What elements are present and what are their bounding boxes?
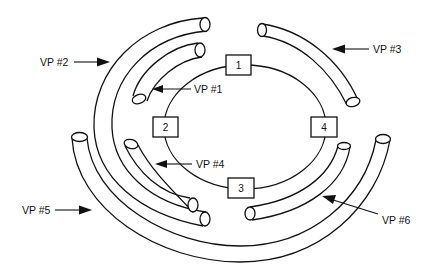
arrow-right-icon	[97, 58, 110, 67]
vp2-callout: VP #2	[40, 56, 110, 68]
node-3-label: 3	[238, 183, 244, 194]
vp1-label: VP #1	[194, 83, 223, 95]
vp5-callout: VP #5	[22, 204, 92, 216]
node-1-label: 1	[236, 60, 242, 71]
virtual-path-1-tube	[131, 43, 205, 106]
virtual-path-ring-diagram: 1 2 3 4 VP #1 VP #2 VP #3 VP #4 VP #5	[0, 0, 429, 278]
vp2-label: VP #2	[40, 56, 69, 68]
virtual-path-2-tube	[94, 18, 210, 227]
arrow-up-left-icon	[322, 195, 336, 204]
virtual-path-3-tube	[258, 24, 361, 109]
node-4-box: 4	[311, 117, 337, 137]
arrow-left-icon	[152, 85, 163, 93]
vp6-label: VP #6	[382, 214, 411, 226]
vp4-callout: VP #4	[155, 158, 225, 170]
node-1-box: 1	[226, 55, 251, 75]
virtual-path-6-tube	[245, 143, 351, 221]
arrow-left-icon	[155, 160, 167, 168]
vp3-label: VP #3	[373, 43, 402, 55]
arrow-right-icon	[79, 206, 92, 215]
arrow-left-icon	[332, 45, 345, 54]
vp4-label: VP #4	[196, 158, 225, 170]
node-3-box: 3	[228, 178, 254, 198]
node-4-label: 4	[321, 122, 327, 133]
vp5-label: VP #5	[22, 204, 51, 216]
virtual-path-4-tube	[123, 138, 198, 212]
vp1-callout: VP #1	[152, 83, 223, 95]
vp3-callout: VP #3	[332, 43, 402, 55]
node-2-box: 2	[153, 117, 178, 137]
ring	[164, 65, 326, 189]
node-2-label: 2	[163, 122, 169, 133]
